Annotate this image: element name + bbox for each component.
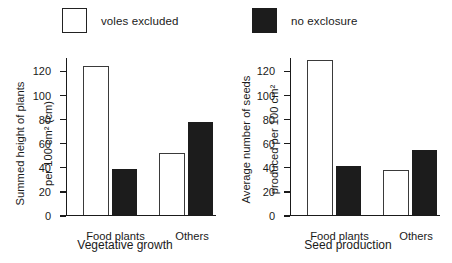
y-tick-label-right-20: 20 [263, 186, 275, 198]
y-tick-label-right-40: 40 [263, 162, 275, 174]
y-tick-left-40: 40 [60, 167, 66, 168]
bar-left-food-plants-no-exclosure [112, 169, 137, 215]
legend-label-voles-excluded: voles excluded [101, 15, 178, 27]
y-tick-label-right-100: 100 [257, 90, 275, 102]
y-tick-left-100: 100 [60, 95, 66, 96]
y-tick-label-right-0: 0 [269, 210, 275, 222]
chart-panel-seed-production: Average number of seeds produced per 100… [232, 48, 452, 258]
y-tick-right-60: 60 [284, 143, 290, 144]
y-tick-label-right-120: 120 [257, 65, 275, 77]
plot-area-left: 020406080100120 Food plants Others [66, 58, 216, 216]
legend-entry-no-exclosure: no exclosure [252, 8, 357, 33]
x-axis-line-right [290, 215, 440, 216]
x-axis-title-left: Vegetative growth [14, 238, 236, 252]
filled-square-icon [252, 8, 277, 33]
y-tick-left-60: 60 [60, 143, 66, 144]
y-tick-label-left-80: 80 [39, 114, 51, 126]
y-tick-label-left-20: 20 [39, 186, 51, 198]
bar-right-others-no-exclosure [412, 150, 437, 215]
legend-label-no-exclosure: no exclosure [291, 15, 357, 27]
y-tick-label-left-0: 0 [45, 210, 51, 222]
y-tick-right-40: 40 [284, 167, 290, 168]
y-tick-right-80: 80 [284, 119, 290, 120]
bar-left-others-no-exclosure [188, 122, 213, 215]
bar-right-others-voles-excluded [383, 170, 408, 215]
open-square-icon [62, 8, 87, 33]
y-tick-label-left-100: 100 [33, 90, 51, 102]
y-axis-title-right-line1: Average number of seeds [240, 76, 252, 204]
y-tick-label-right-60: 60 [263, 138, 275, 150]
y-tick-left-120: 120 [60, 71, 66, 72]
y-tick-left-0: 0 [60, 215, 66, 216]
bar-group-left [67, 58, 216, 215]
y-tick-left-80: 80 [60, 119, 66, 120]
y-tick-right-120: 120 [284, 71, 290, 72]
bar-left-food-plants-voles-excluded [83, 66, 108, 214]
x-axis-title-right: Seed production [238, 238, 452, 252]
bar-right-food-plants-no-exclosure [336, 166, 361, 214]
y-axis-title-left-line1: Summed height of plants [14, 82, 26, 206]
bar-left-others-voles-excluded [159, 153, 184, 214]
y-tick-right-20: 20 [284, 191, 290, 192]
chart-panel-vegetative-growth: Summed height of plants per 100 cm² (cm)… [4, 48, 226, 258]
y-tick-label-left-60: 60 [39, 138, 51, 150]
bar-right-food-plants-voles-excluded [307, 60, 332, 214]
bar-group-right [291, 58, 440, 215]
y-tick-label-left-120: 120 [33, 65, 51, 77]
y-tick-label-left-40: 40 [39, 162, 51, 174]
legend-entry-voles-excluded: voles excluded [62, 8, 178, 33]
y-tick-right-100: 100 [284, 95, 290, 96]
y-tick-right-0: 0 [284, 215, 290, 216]
plot-area-right: 020406080100120 Food plants Others [290, 58, 440, 216]
x-axis-line-left [66, 215, 216, 216]
chart-legend: voles excluded no exclosure [0, 6, 452, 42]
y-tick-left-20: 20 [60, 191, 66, 192]
y-tick-label-right-80: 80 [263, 114, 275, 126]
